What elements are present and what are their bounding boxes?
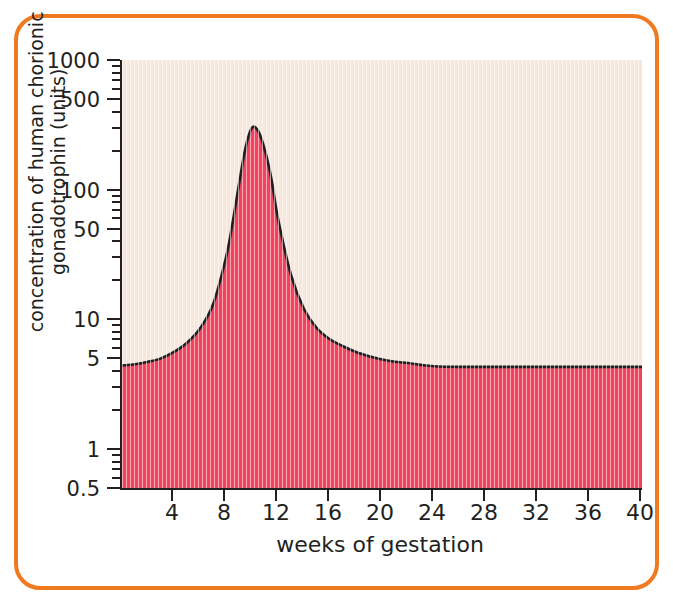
y-tick-label: 0.5 (0, 477, 116, 501)
x-tick-label: 12 (246, 502, 306, 524)
y-tick-label: 100 (0, 179, 116, 203)
y-tick-minor (112, 72, 120, 74)
y-tick-minor (112, 217, 120, 219)
y-tick-minor (112, 127, 120, 129)
y-tick-minor (112, 454, 120, 456)
x-tick-label: 4 (142, 502, 202, 524)
y-tick-minor (112, 347, 120, 349)
y-tick-minor (112, 88, 120, 90)
y-tick-minor (112, 477, 120, 479)
x-tick-label: 24 (402, 502, 462, 524)
y-tick-major (107, 357, 120, 359)
x-tick-label: 28 (454, 502, 514, 524)
x-axis-title: weeks of gestation (120, 532, 640, 557)
y-tick-minor (112, 331, 120, 333)
y-tick-major (107, 318, 120, 320)
x-tick-label: 8 (194, 502, 254, 524)
y-tick-minor (112, 324, 120, 326)
y-tick-minor (112, 111, 120, 113)
y-tick-minor (112, 461, 120, 463)
hcg-area-curve (122, 60, 642, 488)
y-tick-label: 50 (0, 218, 116, 242)
hcg-area-fill (122, 127, 642, 488)
y-tick-minor (112, 79, 120, 81)
y-tick-minor (112, 256, 120, 258)
y-tick-minor (112, 150, 120, 152)
y-tick-label: 5 (0, 347, 116, 371)
y-tick-major (107, 487, 120, 489)
y-tick-major (107, 448, 120, 450)
y-tick-minor (112, 386, 120, 388)
y-tick-minor (112, 65, 120, 67)
y-tick-minor (112, 279, 120, 281)
y-tick-major (107, 59, 120, 61)
y-tick-minor (112, 240, 120, 242)
y-tick-major (107, 189, 120, 191)
y-tick-label: 500 (0, 88, 116, 112)
y-tick-major (107, 228, 120, 230)
y-tick-minor (112, 201, 120, 203)
y-tick-label: 1000 (0, 49, 116, 73)
y-tick-minor (112, 195, 120, 197)
y-tick-minor (112, 409, 120, 411)
y-tick-major (107, 98, 120, 100)
x-tick-label: 36 (558, 502, 618, 524)
x-tick-label: 16 (298, 502, 358, 524)
y-tick-label: 1 (0, 438, 116, 462)
y-tick-minor (112, 338, 120, 340)
figure-container: concentration of human chorionic gonadot… (0, 0, 673, 604)
x-tick-label: 20 (350, 502, 410, 524)
x-tick-label: 32 (506, 502, 566, 524)
y-tick-minor (112, 370, 120, 372)
x-tick-label: 40 (610, 502, 670, 524)
y-tick-minor (112, 209, 120, 211)
plot-area (120, 60, 642, 490)
y-tick-label: 10 (0, 308, 116, 332)
y-tick-minor (112, 468, 120, 470)
